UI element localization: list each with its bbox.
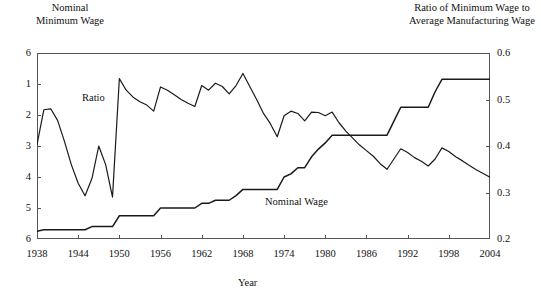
y-tick-label-left: 3 (9, 140, 31, 151)
x-tick-label: 1968 (226, 248, 260, 259)
x-tick-label: 1980 (308, 248, 342, 259)
plot-area (37, 53, 490, 239)
x-axis-title: Year (238, 277, 257, 288)
series-label-nominal-wage: Nominal Wage (265, 196, 328, 207)
y-tick-label-left: 6 (9, 233, 31, 244)
y-tick-label-left: 5 (9, 202, 31, 213)
x-tick-label: 1974 (267, 248, 301, 259)
y-tick-label-right: 0.6 (497, 47, 523, 58)
y-tick-label-right: 0.3 (497, 187, 523, 198)
left-axis-caption: Nominal Minimum Wage (18, 2, 122, 27)
x-tick-label: 1938 (20, 248, 54, 259)
series-line-ratio (37, 73, 490, 197)
y-tick-label-left: 6 (9, 47, 31, 58)
x-tick-label: 1950 (102, 248, 136, 259)
y-tick-label-right: 0.4 (497, 140, 523, 151)
series-group (37, 73, 490, 231)
chart-svg (37, 53, 490, 239)
x-tick-label: 1992 (391, 248, 425, 259)
x-tick-label: 1998 (432, 248, 466, 259)
x-tick-label: 1956 (144, 248, 178, 259)
minimum-wage-chart-figure: Nominal Minimum Wage Ratio of Minimum Wa… (0, 0, 541, 304)
x-tick-label: 1986 (349, 248, 383, 259)
y-tick-label-right: 0.2 (497, 233, 523, 244)
series-line-nominal-wage (37, 79, 490, 231)
x-tick-label: 1944 (61, 248, 95, 259)
y-tick-label-right: 0.5 (497, 94, 523, 105)
series-label-ratio: Ratio (82, 92, 105, 103)
right-axis-caption: Ratio of Minimum Wage to Average Manufac… (406, 2, 538, 27)
x-tick-label: 1962 (185, 248, 219, 259)
axes-group (37, 53, 490, 239)
y-tick-label-left: 1 (9, 78, 31, 89)
x-tick-label: 2004 (473, 248, 507, 259)
y-tick-label-left: 2 (9, 109, 31, 120)
y-tick-label-left: 4 (9, 171, 31, 182)
